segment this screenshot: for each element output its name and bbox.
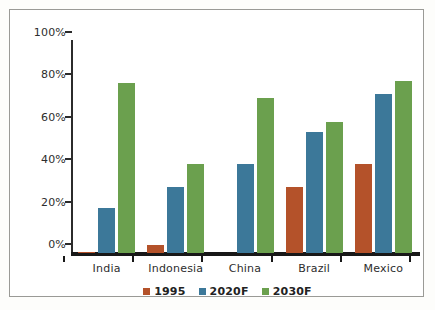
y-axis-tick-label: 60% [20, 111, 66, 122]
bar [98, 208, 115, 253]
bar [147, 245, 164, 253]
y-axis-tick-label: 20% [20, 196, 66, 207]
bar [187, 164, 204, 253]
legend-label: 2020F [210, 286, 249, 297]
bar-group [355, 41, 412, 253]
x-axis-category-label: China [229, 262, 261, 275]
y-axis-tick-label: 100% [20, 27, 66, 38]
y-axis-tick-mark [65, 243, 72, 245]
chart-page: 0%20%40%60%80%100% IndiaIndonesiaChinaBr… [0, 0, 435, 310]
bar-group [217, 41, 274, 253]
bar-group [78, 41, 135, 253]
y-axis-tick-label: 80% [20, 69, 66, 80]
bar [257, 98, 274, 253]
y-axis-tick-mark [65, 158, 72, 160]
y-axis-tick-label: 0% [20, 239, 66, 250]
legend-item: 2030F [262, 286, 312, 297]
bar [395, 81, 412, 253]
bar [375, 94, 392, 253]
x-axis-category-label: Indonesia [148, 262, 203, 275]
y-axis-tick-mark [65, 201, 72, 203]
y-axis-tick-mark [65, 73, 72, 75]
bar [355, 164, 372, 253]
legend-item: 2020F [199, 286, 249, 297]
y-axis-tick-mark [65, 116, 72, 118]
bar [286, 187, 303, 253]
y-axis-labels: 0%20%40%60%80%100% [16, 10, 66, 310]
bar [118, 83, 135, 253]
bar [306, 132, 323, 253]
bar-group [147, 41, 204, 253]
bar [237, 164, 254, 253]
bar [326, 122, 343, 253]
legend-label: 1995 [154, 286, 185, 297]
legend-label: 2030F [273, 286, 312, 297]
legend-swatch-icon [262, 288, 269, 295]
legend-swatch-icon [199, 288, 206, 295]
x-axis-category-labels: IndiaIndonesiaChinaBrazilMexico [72, 262, 418, 280]
x-axis-category-label: Mexico [364, 262, 404, 275]
chart-figure-frame: 0%20%40%60%80%100% IndiaIndonesiaChinaBr… [9, 9, 424, 297]
bar [167, 187, 184, 253]
y-axis-tick-label: 40% [20, 154, 66, 165]
bar-group [286, 41, 343, 253]
plot-area [72, 41, 418, 253]
x-axis-tick-mark [63, 256, 65, 262]
y-axis-tick-mark [65, 31, 72, 33]
bar [78, 252, 95, 253]
x-axis-category-label: India [93, 262, 121, 275]
legend-swatch-icon [143, 288, 150, 295]
chart-legend: 19952020F2030F [10, 286, 435, 297]
legend-item: 1995 [143, 286, 185, 297]
x-axis-category-label: Brazil [298, 262, 330, 275]
